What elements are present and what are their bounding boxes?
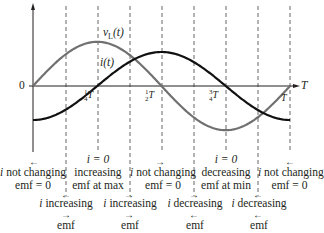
tick-T: T <box>281 91 287 104</box>
vl-label: vL(t) <box>103 26 124 43</box>
annot-text: emf = 0 <box>145 179 181 191</box>
annot-emf-3: emf <box>166 219 224 232</box>
axes <box>29 8 296 152</box>
vl-arg: (t) <box>113 26 124 38</box>
frac-suffix: T <box>149 89 155 100</box>
frac-suffix: T <box>213 89 219 100</box>
annot-text: emf = 0 <box>15 179 51 191</box>
annot-not-changing-2: i not changingemf = 0 <box>130 166 196 192</box>
tick-three-quarter-T: 34 T <box>209 88 218 103</box>
annot-text: emf = 0 <box>272 179 308 191</box>
annot-not-changing-3: i not changingemf = 0 <box>258 166 321 192</box>
annot-text: emf at max <box>72 179 124 191</box>
annot-not-changing-1: i not changingemf = 0 <box>0 166 66 192</box>
tick-quarter-T: 14 T <box>84 88 93 103</box>
annot-text: not changing <box>3 166 66 178</box>
t-axis-label: T <box>301 79 307 92</box>
annot-emf-4: emf <box>230 219 288 232</box>
i-label: i(t) <box>100 56 114 69</box>
annot-text: decreasing <box>171 197 223 209</box>
annot-text: not changing <box>261 166 324 178</box>
tick-half-T: 12 T <box>145 88 154 103</box>
annot-text: i = 0 <box>215 153 237 165</box>
t-axis-arrowhead <box>293 84 300 88</box>
annot-text: emf at min <box>201 179 251 191</box>
annot-text: increasing <box>43 197 93 209</box>
annot-text: decreasing <box>201 166 250 178</box>
annot-emf-2: emf <box>102 219 158 232</box>
annot-text: decreasing <box>235 197 287 209</box>
origin-label: 0 <box>19 79 25 92</box>
annot-text: increasing <box>74 166 121 178</box>
annot-text: increasing <box>107 197 157 209</box>
annot-text: i = 0 <box>87 153 109 165</box>
frac-suffix: T <box>88 89 94 100</box>
annot-text: not changing <box>133 166 196 178</box>
y-axis-arrowhead <box>31 3 35 10</box>
annot-increasing-max: i = 0increasingemf at max <box>70 153 126 192</box>
annot-emf-1: emf <box>38 219 94 232</box>
annot-decreasing-min: i = 0decreasingemf at min <box>198 153 254 192</box>
